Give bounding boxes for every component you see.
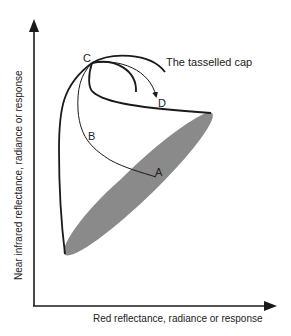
soil-line-ellipse — [64, 112, 213, 255]
tasselled-cap-diagram: C D B A The tasselled cap Red reflectanc… — [0, 0, 291, 336]
tassel-outer-arc — [92, 56, 165, 72]
x-axis-label: Red reflectance, radiance or response — [93, 313, 263, 324]
cap-boundary-right — [89, 63, 211, 113]
diagram-canvas: C D B A The tasselled cap Red reflectanc… — [0, 0, 291, 336]
point-label-c: C — [83, 52, 91, 64]
point-label-d: D — [158, 97, 166, 109]
point-label-a: A — [155, 166, 163, 178]
x-axis-arrow-icon — [264, 301, 277, 311]
y-axis-arrow-icon — [29, 19, 39, 32]
point-label-b: B — [88, 130, 95, 142]
diagram-title: The tasselled cap — [166, 56, 252, 68]
y-axis-label: Near infrared reflectance, radiance or r… — [13, 70, 24, 280]
